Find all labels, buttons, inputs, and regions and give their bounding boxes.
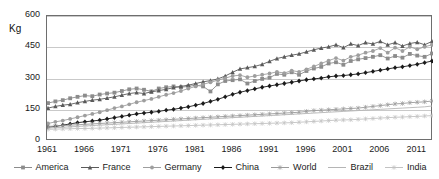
legend-marker-india-icon (384, 163, 404, 172)
legend-item-germany[interactable]: Germany (142, 163, 202, 172)
legend-label: China (236, 163, 260, 172)
y-axis-unit-label: Kg (9, 23, 21, 34)
legend-marker-world-icon (270, 163, 290, 172)
legend-label: World (293, 163, 316, 172)
legend-label: India (407, 163, 427, 172)
x-tick-label: 2006 (362, 145, 396, 154)
legend-marker-france-icon (80, 163, 100, 172)
chart-legend: AmericaFranceGermanyChinaWorldBrazilIndi… (0, 160, 439, 174)
legend-label: Brazil (350, 163, 373, 172)
legend-marker-germany-icon (142, 163, 162, 172)
series-america (47, 52, 433, 105)
x-tick-label: 2011 (399, 145, 433, 154)
legend-label: America (36, 163, 69, 172)
x-tick-label: 1981 (178, 145, 212, 154)
series-lines (47, 16, 433, 141)
y-tick-label: 600 (0, 10, 40, 19)
legend-item-india[interactable]: India (384, 163, 427, 172)
legend-marker-brazil-icon (327, 163, 347, 172)
chart-container: Kg 0150300450600 19611966197119761981198… (0, 0, 439, 179)
legend-item-china[interactable]: China (213, 163, 260, 172)
y-tick-label: 0 (0, 135, 40, 144)
x-tick-label: 1966 (67, 145, 101, 154)
legend-item-america[interactable]: America (13, 163, 69, 172)
legend-item-france[interactable]: France (80, 163, 131, 172)
y-tick-label: 150 (0, 104, 40, 113)
y-tick-label: 300 (0, 73, 40, 82)
series-germany (47, 43, 433, 126)
x-tick-label: 1971 (104, 145, 138, 154)
x-tick-label: 1961 (30, 145, 64, 154)
x-tick-label: 1991 (252, 145, 286, 154)
x-tick-label: 1986 (215, 145, 249, 154)
y-tick-label: 450 (0, 41, 40, 50)
legend-marker-china-icon (213, 163, 233, 172)
legend-label: Germany (165, 163, 202, 172)
x-tick-label: 1996 (288, 145, 322, 154)
legend-marker-america-icon (13, 163, 33, 172)
legend-item-brazil[interactable]: Brazil (327, 163, 373, 172)
x-tick-label: 1976 (141, 145, 175, 154)
legend-label: France (103, 163, 131, 172)
x-tick-label: 2001 (325, 145, 359, 154)
legend-item-world[interactable]: World (270, 163, 316, 172)
plot-area (46, 15, 432, 140)
